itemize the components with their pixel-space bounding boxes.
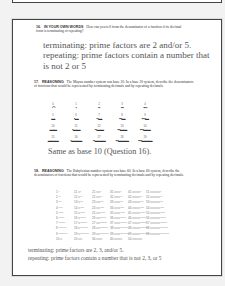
babylonian-numeral: 50 ᐸᐸᐸᐸᐸ — [128, 237, 146, 242]
maya-glyph-icon: ••••▬▬▬ — [138, 139, 152, 143]
question-tag: REASONING — [42, 80, 64, 84]
question-18: 18. REASONING The Babylonian number syst… — [34, 169, 194, 178]
maya-glyph-icon: ••••▬▬ — [140, 128, 151, 132]
maya-glyph-icon: ••▬ — [96, 117, 101, 121]
maya-glyph-icon: ▬ — [51, 117, 55, 121]
maya-glyph-icon: ▬▬ — [50, 128, 57, 132]
maya-numeral: 19••••▬▬▬ — [134, 136, 156, 147]
babylonian-numeral: 30 ᐸᐸᐸ — [92, 237, 110, 242]
babylonian-numeral — [146, 237, 164, 242]
maya-glyph-icon: •••• — [143, 106, 147, 110]
answer-16: terminating: prime factors are 2 and/or … — [43, 40, 213, 71]
question-number: 18. — [34, 169, 39, 173]
maya-glyph-icon: •• — [98, 106, 100, 110]
maya-glyph-icon: •▬▬▬ — [70, 139, 81, 143]
maya-glyph-icon: ▬▬▬ — [48, 139, 59, 143]
question-16: 16. IN YOUR OWN WORDS How can you tell f… — [36, 25, 186, 34]
maya-numeral: 15▬▬▬ — [42, 136, 64, 147]
maya-glyph-icon: ◠ — [52, 106, 55, 110]
maya-glyph-icon: •••▬▬ — [117, 128, 127, 132]
maya-glyph-icon: • — [76, 106, 77, 110]
question-tag: IN YOUR OWN WORDS — [44, 25, 83, 29]
maya-numeral: 17••▬▬▬ — [88, 136, 110, 147]
answer-17: Same as base 10 (Question 16). — [48, 147, 151, 156]
maya-glyph-icon: ••▬▬ — [95, 128, 104, 132]
question-17: 17. REASONING The Mayan number system wa… — [34, 80, 194, 89]
maya-glyph-icon: •••▬ — [119, 117, 125, 121]
maya-glyph-icon: ••• — [121, 106, 124, 110]
answer-18-line-1: terminating: prime factors are 2, 3, and… — [28, 246, 218, 254]
maya-glyph-icon: •▬ — [74, 117, 78, 121]
maya-glyph-icon: ••▬▬▬ — [93, 139, 105, 143]
babylonian-numeral-table: 1 ᵛ11 ᐸᵛ21 ᐸᐸᵛ31 ᐸᐸᐸᵛ41 ᐸᐸᐸᐸᵛ51 ᐸᐸᐸᐸᐸᵛ2 … — [56, 190, 166, 242]
question-number: 16. — [36, 25, 41, 29]
question-tag: REASONING — [42, 169, 64, 173]
maya-row: 15▬▬▬16•▬▬▬17••▬▬▬18•••▬▬▬19••••▬▬▬ — [42, 136, 162, 147]
maya-glyph-icon: ••••▬ — [141, 117, 148, 121]
maya-numeral: 16•▬▬▬ — [65, 136, 87, 147]
babylonian-numeral: 10 ᐸ — [56, 237, 74, 242]
question-number: 17. — [34, 80, 39, 84]
mayan-numeral-table: 0◠1•2••3•••4••••5▬6•▬7••▬8•••▬9••••▬10▬▬… — [42, 103, 162, 147]
babylonian-numeral: 40 ᐸᐸᐸᐸ — [110, 237, 128, 242]
answer-18-line-2: repeating: prime factors contain a numbe… — [28, 254, 218, 262]
babylonian-row: 10 ᐸ20 ᐸᐸ30 ᐸᐸᐸ40 ᐸᐸᐸᐸ50 ᐸᐸᐸᐸᐸ — [56, 237, 166, 242]
maya-glyph-icon: •••▬▬▬ — [115, 139, 128, 143]
previous-page-box — [12, 0, 222, 3]
babylonian-numeral: 20 ᐸᐸ — [74, 237, 92, 242]
maya-numeral: 18•••▬▬▬ — [111, 136, 133, 147]
maya-glyph-icon: •▬▬ — [72, 128, 80, 132]
answer-18: terminating: prime factors are 2, 3, and… — [28, 246, 218, 262]
